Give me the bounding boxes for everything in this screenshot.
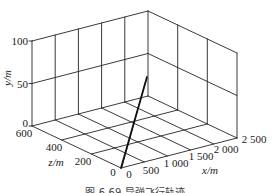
z-tick-600: 600 — [16, 127, 33, 139]
y-tick-100: 100 — [12, 35, 29, 47]
y-axis-label: y/m — [1, 70, 13, 87]
z-axis: 600 400 200 0 z/m — [16, 127, 117, 178]
z-tick-0: 0 — [110, 166, 116, 178]
x-axis: 0 500 1 000 1 500 2 000 2 500 x/m — [126, 133, 267, 180]
y-tick-50: 50 — [17, 78, 29, 90]
z-axis-label: z/m — [47, 156, 63, 168]
x-tick-1500: 1 500 — [189, 150, 214, 162]
x-tick-0: 0 — [126, 168, 132, 180]
x-axis-label: x/m — [201, 164, 218, 176]
x-tick-500: 500 — [143, 164, 160, 176]
chart-3d-plot: 100 50 0 y/m 600 400 200 0 z/m 0 500 1 0… — [0, 0, 273, 193]
z-tick-200: 200 — [75, 155, 92, 167]
x-tick-2000: 2 000 — [214, 143, 239, 155]
grid-back-wall-z600 — [32, 11, 148, 126]
x-tick-1000: 1 000 — [164, 157, 189, 169]
y-axis: 100 50 0 y/m — [1, 35, 32, 129]
x-tick-2500: 2 500 — [242, 133, 267, 145]
z-tick-400: 400 — [46, 141, 63, 153]
figure-caption: 图 6-69 导弹飞行轨迹 — [85, 186, 184, 193]
